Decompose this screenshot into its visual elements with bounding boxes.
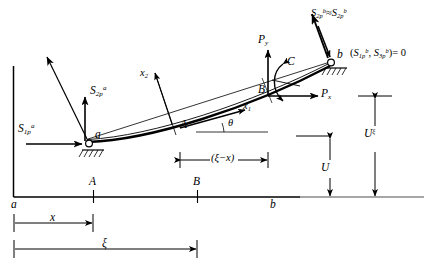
- force-arrow-S2p-b: [312, 14, 330, 58]
- label-force-S1p-a: S1pa: [18, 123, 34, 135]
- label-section-A-upper: A: [180, 119, 187, 131]
- undeformed-chord: [88, 62, 330, 139]
- label-angle-theta: θ: [228, 118, 233, 129]
- dimension-U-xi: [358, 96, 392, 196]
- label-section-B-upper: B: [258, 84, 265, 96]
- label-force-S2p-a: S2pa: [90, 85, 106, 97]
- label-baseline-b: b: [270, 199, 276, 211]
- label-force-S2p-b: S2pb≈S2pb: [311, 8, 347, 19]
- label-baseline-B: B: [193, 176, 200, 188]
- label-dimension-U: U: [321, 162, 329, 174]
- label-couple-C: C: [287, 56, 295, 68]
- label-zero-condition: (S1pb, S3pb)= 0: [350, 48, 406, 59]
- label-dimension-U-xi: Uξ: [364, 128, 375, 140]
- label-dimension-xi: ξ: [102, 238, 107, 250]
- reference-frame: [14, 66, 425, 197]
- label-force-Px: Px: [321, 88, 331, 100]
- label-node-b-upper: b: [337, 49, 343, 61]
- label-axis-x1: x1: [243, 101, 251, 112]
- support-pin-a: [79, 140, 104, 157]
- label-node-a-upper: a: [95, 129, 101, 141]
- label-dimension-x: x: [50, 212, 55, 224]
- label-baseline-a: a: [11, 199, 17, 211]
- beam-mechanics-figure: S1pa S2pa S2pb≈S2pb (S1pb, S3pb)= 0 Px P…: [0, 0, 425, 268]
- force-arrow-resultant-a: [47, 57, 88, 141]
- diagram-canvas: [0, 0, 425, 268]
- label-force-Py: Py: [258, 34, 268, 46]
- deformed-beam: [88, 63, 330, 142]
- label-dimension-xi-minus-x: (ξ−x): [211, 153, 234, 164]
- label-axis-x2: x2: [140, 68, 148, 79]
- label-baseline-A: A: [89, 176, 96, 188]
